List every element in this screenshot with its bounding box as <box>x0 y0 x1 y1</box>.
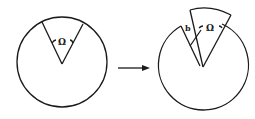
wedge-disclination-diagram: Ω b Ω <box>0 0 255 119</box>
left-figure <box>17 17 107 107</box>
left-angle-arc-right <box>70 40 73 43</box>
right-omega-label: Ω <box>206 23 214 33</box>
right-angle-arc-left <box>199 26 203 28</box>
left-angle-arc-left <box>52 40 56 43</box>
left-omega-label: Ω <box>58 37 66 47</box>
displacement-b-label: b <box>185 23 191 33</box>
right-wedge-arc <box>190 8 231 15</box>
transform-arrow <box>118 65 150 71</box>
right-angle-arc-right <box>219 26 222 28</box>
right-figure <box>158 8 248 110</box>
left-circle <box>17 17 107 107</box>
arrow-head-icon <box>142 65 150 71</box>
